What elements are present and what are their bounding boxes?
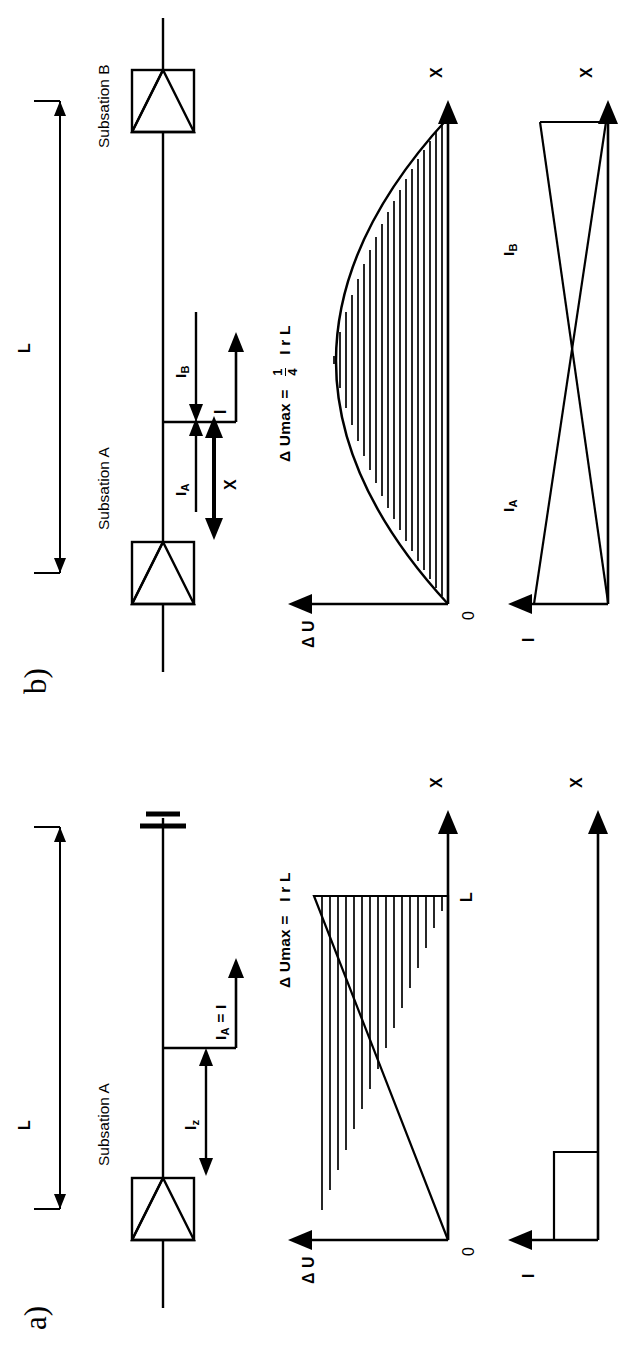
panel-b-current-a-label: IA [172, 483, 191, 496]
panel-b-voltage-max-formula: Δ Umax = 1 4 I r L [272, 325, 300, 462]
panel-a-voltage-xtick-label: L [458, 892, 476, 902]
panel-a-distance-label: lz [182, 1120, 201, 1130]
fraction-denominator: 4 [285, 368, 300, 375]
panel-a-load-current-label: IA = I [212, 1004, 231, 1040]
panel-b-formula-fraction: 1 4 [271, 368, 299, 375]
series-ib-line [540, 122, 608, 602]
panel-b-length-label: L [16, 343, 34, 353]
panel-a-voltage-yaxis-label: Δ U [300, 1257, 318, 1285]
panel-b-current-b-label: IB [172, 365, 191, 378]
panel-b-current-xaxis-label: X [578, 67, 596, 78]
panel-b: b) [0, 0, 637, 708]
panel-a-voltage-origin-label: 0 [460, 1247, 478, 1256]
panel-b-series-b-label: IB [500, 243, 519, 256]
panel-b-voltage-xaxis-label: X [428, 67, 446, 78]
panel-a-network-diagram [0, 708, 240, 1348]
panel-a-current-xaxis-label: X [568, 777, 586, 788]
panel-b-load-current-label: I [212, 410, 230, 414]
panel-a-hatching [322, 896, 442, 1210]
panel-a-formula-prefix: Δ Umax = [276, 915, 293, 988]
panel-a-voltage-xaxis-label: X [428, 777, 446, 788]
panel-b-series-a-label: IA [500, 499, 519, 512]
panel-a-substation-label: Subsation A [95, 1083, 113, 1166]
fraction-numerator: 1 [271, 368, 285, 375]
series-ia-line [534, 122, 606, 604]
panel-b-voltage-origin-label: 0 [460, 611, 478, 620]
figure-canvas: a) [0, 0, 637, 1348]
panel-b-current-yaxis-label: I [520, 638, 538, 642]
panel-b-voltage-yaxis-label: Δ U [300, 621, 318, 649]
panel-a-current-yaxis-label: I [520, 1274, 538, 1278]
panel-a-voltage-chart [248, 708, 478, 1348]
panel-b-substation-a-label: Subsation A [95, 447, 113, 530]
substation-a-symbol [132, 1178, 194, 1240]
panel-b-formula-prefix: Δ Umax = [276, 389, 293, 462]
panel-b-formula-suffix: I r L [276, 325, 293, 354]
substation-a-symbol [132, 542, 194, 604]
panel-a: a) [0, 708, 637, 1348]
panel-a-voltage-max-formula: Δ Umax = I r L [276, 872, 294, 988]
panel-a-formula-value: I r L [276, 872, 293, 901]
substation-b-symbol [132, 70, 194, 132]
panel-b-substation-b-label: Subsation B [95, 64, 113, 148]
panel-a-current-chart [478, 708, 637, 1348]
panel-b-distance-label: X [222, 479, 240, 490]
panel-b-network-diagram [0, 0, 240, 708]
panel-b-current-chart [478, 0, 637, 708]
panel-a-length-label: L [16, 1120, 34, 1130]
